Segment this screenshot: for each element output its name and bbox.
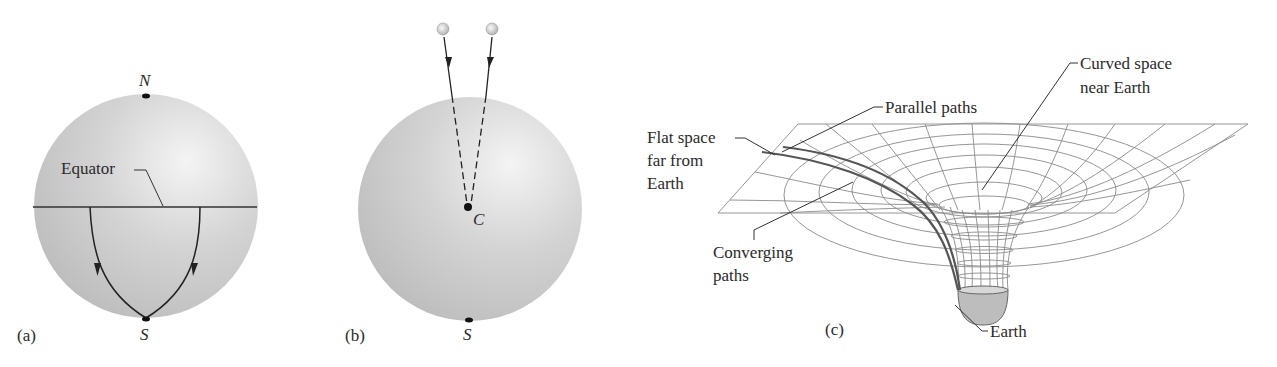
- converging-leader: [754, 182, 853, 240]
- north-label: N: [138, 71, 152, 90]
- curved-space-label-line1: Curved space: [1080, 54, 1172, 73]
- earth-hemisphere: [958, 290, 1008, 325]
- sheet-grid-radials: [730, 124, 1235, 213]
- south-pole-dot-b: [465, 318, 473, 323]
- arrow-left-fall: [445, 57, 452, 68]
- north-pole-dot: [142, 94, 150, 99]
- panel-label-b: (b): [345, 326, 365, 345]
- converging-label-line1: Converging: [713, 243, 793, 262]
- panel-c: Parallel paths Curved space near Earth F…: [647, 54, 1248, 341]
- sheet-grid-rings: [784, 123, 1184, 267]
- panel-b: C S (b): [345, 23, 582, 345]
- converging-label-line2: paths: [713, 266, 749, 285]
- curved-space-leader: [982, 63, 1078, 190]
- earth-sphere-a: [34, 94, 258, 318]
- south-label-b: S: [463, 325, 472, 344]
- arrow-right-fall: [487, 57, 494, 68]
- panel-label-a: (a): [17, 326, 36, 345]
- panel-label-c: (c): [825, 320, 844, 339]
- fall-path-left: [444, 37, 452, 96]
- funnel-grid: [940, 207, 1029, 290]
- flat-space-label-line3: Earth: [647, 174, 684, 193]
- equator-label: Equator: [61, 159, 115, 178]
- earth-top-cap: [958, 286, 1008, 294]
- center-dot: [464, 203, 472, 211]
- panel-a: N Equator S (a): [17, 71, 258, 345]
- south-pole-dot: [142, 317, 150, 322]
- flat-space-label-line2: far from: [647, 151, 703, 170]
- converging-path-1: [762, 152, 958, 290]
- earth-label: Earth: [990, 322, 1027, 341]
- south-label-a: S: [140, 325, 149, 344]
- center-label: C: [473, 210, 485, 229]
- curved-space-label-line2: near Earth: [1080, 78, 1151, 97]
- apple-right-icon: [486, 23, 498, 35]
- parallel-paths-label: Parallel paths: [885, 98, 977, 117]
- flat-space-label-line1: Flat space: [647, 128, 715, 147]
- converging-path-2: [783, 147, 960, 290]
- apple-left-icon: [437, 23, 449, 35]
- figure-canvas: N Equator S (a) C S (b): [0, 0, 1277, 367]
